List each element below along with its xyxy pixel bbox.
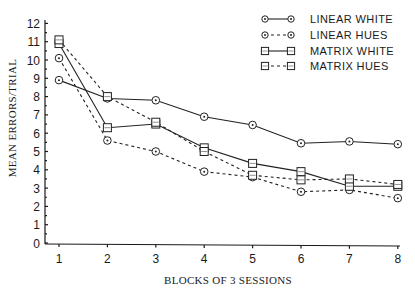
legend-label: LINEAR HUES — [310, 29, 388, 41]
y-tick-label: 5 — [33, 145, 40, 159]
marker-dot — [155, 151, 157, 153]
marker-dot — [58, 57, 60, 59]
x-tick-label: 7 — [346, 252, 353, 266]
x-tick-label: 6 — [298, 252, 305, 266]
x-tick-label: 1 — [56, 252, 63, 266]
marker-dot — [397, 143, 399, 145]
y-tick-label: 1 — [33, 218, 40, 232]
y-tick-label: 2 — [33, 200, 40, 214]
x-tick-label: 3 — [152, 252, 159, 266]
y-tick-label: 4 — [33, 163, 40, 177]
marker-dot — [397, 197, 399, 199]
legend-label: LINEAR WHITE — [310, 13, 393, 25]
x-axis — [45, 244, 400, 246]
series-line — [59, 80, 398, 144]
legend-label: MATRIX WHITE — [310, 45, 394, 57]
x-tick-label: 8 — [394, 252, 401, 266]
x-axis-title: BLOCKS OF 3 SESSIONS — [164, 274, 292, 286]
x-tick-label: 5 — [249, 252, 256, 266]
line-chart: 0123456789101112 12345678 BLOCKS OF 3 SE… — [0, 0, 415, 297]
y-tick-label: 7 — [33, 108, 40, 122]
marker-dot — [58, 79, 60, 81]
y-tick-label: 6 — [33, 127, 40, 141]
marker-dot — [106, 140, 108, 142]
legend-item: LINEAR WHITE — [262, 13, 393, 25]
y-tick-label: 9 — [33, 72, 40, 86]
series-matrix-hues — [55, 36, 402, 189]
marker-dot — [203, 116, 205, 118]
legend: LINEAR WHITELINEAR HUESMATRIX WHITEMATRI… — [261, 13, 394, 72]
x-ticks: 12345678 — [56, 244, 402, 266]
legend-item: LINEAR HUES — [262, 29, 388, 41]
legend-label: MATRIX HUES — [310, 60, 389, 72]
marker-dot — [203, 171, 205, 173]
y-tick-label: 0 — [33, 237, 40, 251]
marker-dot — [155, 99, 157, 101]
marker-dot — [348, 140, 350, 142]
y-tick-label: 3 — [33, 182, 40, 196]
x-tick-label: 2 — [104, 252, 111, 266]
marker-dot — [264, 34, 266, 36]
x-tick-label: 4 — [201, 252, 208, 266]
y-axis-title: MEAN ERRORS/TRIAL — [6, 59, 18, 177]
legend-item: MATRIX HUES — [261, 60, 388, 72]
marker-dot — [300, 191, 302, 193]
y-tick-label: 12 — [27, 17, 41, 31]
marker-dot — [252, 124, 254, 126]
y-tick-label: 11 — [28, 35, 41, 49]
y-tick-label: 10 — [27, 54, 41, 68]
y-tick-label: 8 — [33, 90, 40, 104]
marker-dot — [290, 34, 292, 36]
marker-dot — [264, 18, 266, 20]
marker-dot — [300, 142, 302, 144]
marker-dot — [290, 18, 292, 20]
legend-item: MATRIX WHITE — [261, 45, 394, 57]
